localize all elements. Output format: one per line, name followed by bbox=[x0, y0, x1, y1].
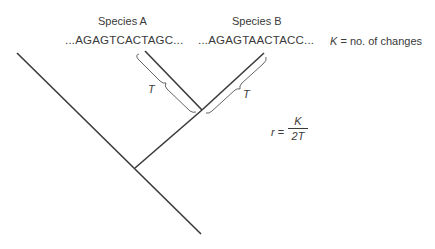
species-a-sequence: ...AGAGTCACTAGC... bbox=[65, 34, 183, 46]
species-b-sequence: ...AGAGTAACTACC... bbox=[198, 34, 314, 46]
k-text: = no. of changes bbox=[337, 35, 422, 47]
formula-lhs: r = bbox=[271, 126, 284, 138]
species-b-branch bbox=[202, 53, 264, 110]
bracket-b bbox=[206, 57, 266, 113]
branch-time-label-a: T bbox=[148, 83, 155, 95]
formula-eq: = bbox=[275, 126, 284, 138]
species-a-label: Species A bbox=[98, 15, 147, 27]
species-a-branch bbox=[145, 51, 202, 110]
species-b-label: Species B bbox=[232, 15, 282, 27]
formula-numerator: K bbox=[288, 115, 308, 127]
bracket-a bbox=[137, 54, 196, 112]
internal-branch bbox=[135, 110, 202, 168]
formula-fraction: K 2T bbox=[288, 115, 308, 142]
branch-time-label-b: T bbox=[243, 88, 250, 100]
k-definition: K = no. of changes bbox=[330, 35, 422, 47]
formula-denominator: 2T bbox=[288, 130, 308, 142]
fraction-bar bbox=[288, 128, 308, 129]
